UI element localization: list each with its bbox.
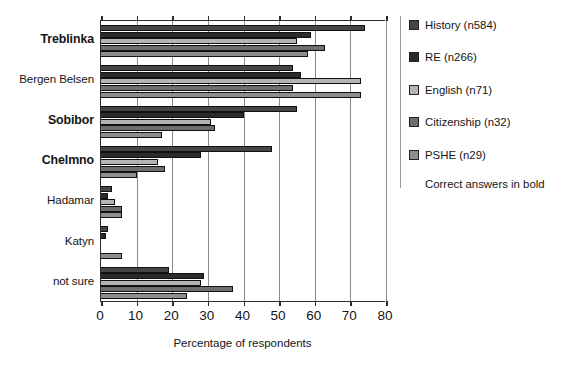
legend-item: English (n71) [409, 83, 567, 96]
bar [101, 172, 137, 178]
axis-tick [208, 16, 210, 21]
axis-tick [350, 16, 352, 21]
bar [101, 159, 158, 165]
x-tick-label: 30 [199, 308, 214, 323]
bar [101, 212, 122, 218]
bar [101, 106, 297, 112]
bar [101, 193, 108, 199]
bar-group [101, 146, 385, 178]
x-tick-label: 20 [164, 308, 179, 323]
bar-group [101, 267, 385, 299]
bar [101, 253, 122, 259]
legend-label: Citizenship (n32) [425, 116, 510, 128]
bar [101, 286, 233, 292]
legend-swatch-icon [409, 85, 419, 95]
legend-item: History (n584) [409, 18, 567, 31]
gridline [386, 21, 387, 301]
bar [101, 166, 165, 172]
bar [101, 78, 361, 84]
axis-tick [279, 16, 281, 21]
axis-tick [101, 301, 103, 306]
bar [101, 92, 361, 98]
bar-group [101, 65, 385, 97]
category-label: Treblinka [40, 32, 94, 46]
axis-tick [279, 301, 281, 306]
legend-item: RE (n266) [409, 51, 567, 64]
bar [101, 38, 297, 44]
category-label: not sure [53, 274, 94, 287]
legend-swatch-icon [409, 117, 419, 127]
bar [101, 273, 204, 279]
bar [101, 119, 211, 125]
chart-figure: TreblinkaBergen BelsenSobiborChelmnoHada… [0, 0, 567, 373]
bar [101, 132, 162, 138]
legend-swatch-icon [409, 52, 419, 62]
category-label: Sobibor [48, 113, 94, 127]
legend-divider [400, 16, 401, 188]
x-tick-label: 70 [342, 308, 357, 323]
x-axis-title: Percentage of respondents [100, 337, 385, 349]
x-tick-label: 80 [377, 308, 392, 323]
axis-tick [208, 301, 210, 306]
legend: History (n584)RE (n266)English (n71)Citi… [409, 18, 567, 181]
category-label: Hadamar [47, 193, 94, 206]
bar [101, 65, 293, 71]
bar [101, 152, 201, 158]
axis-tick [315, 16, 317, 21]
bar [101, 199, 115, 205]
bar [101, 280, 201, 286]
bar-group [101, 25, 385, 57]
x-tick-label: 40 [235, 308, 250, 323]
bar-group [101, 186, 385, 218]
bar [101, 146, 272, 152]
bar [101, 186, 112, 192]
plot-area [100, 20, 385, 302]
legend-note: Correct answers in bold [425, 178, 545, 190]
bar [101, 206, 122, 212]
axis-tick [137, 16, 139, 21]
category-axis-labels: TreblinkaBergen BelsenSobiborChelmnoHada… [0, 20, 94, 302]
bar [101, 45, 325, 51]
legend-label: RE (n266) [425, 51, 477, 63]
bar [101, 85, 293, 91]
bar [101, 267, 169, 273]
category-label: Chelmno [42, 153, 94, 167]
axis-tick [350, 301, 352, 306]
axis-tick [386, 301, 388, 306]
bar-group [101, 226, 385, 258]
bar [101, 51, 308, 57]
x-tick-labels: 01020304050607080 [0, 308, 567, 326]
axis-tick [172, 301, 174, 306]
bar [101, 233, 106, 239]
bar [101, 112, 244, 118]
x-tick-label: 60 [306, 308, 321, 323]
legend-swatch-icon [409, 20, 419, 30]
x-tick-label: 50 [271, 308, 286, 323]
category-label: Katyn [65, 234, 94, 247]
axis-tick [244, 301, 246, 306]
bar [101, 72, 301, 78]
axis-tick [315, 301, 317, 306]
axis-tick [172, 16, 174, 21]
bar [101, 226, 108, 232]
bar-group [101, 106, 385, 138]
bar [101, 293, 187, 299]
axis-tick [244, 16, 246, 21]
axis-tick [101, 16, 103, 21]
legend-item: Citizenship (n32) [409, 116, 567, 129]
axis-tick [137, 301, 139, 306]
bar [101, 125, 215, 131]
legend-item: PSHE (n29) [409, 148, 567, 161]
bar [101, 25, 365, 31]
legend-label: History (n584) [425, 19, 497, 31]
x-tick-label: 0 [96, 308, 104, 323]
legend-label: PSHE (n29) [425, 149, 486, 161]
axis-tick [386, 16, 388, 21]
category-label: Bergen Belsen [19, 72, 94, 85]
legend-swatch-icon [409, 150, 419, 160]
x-tick-label: 10 [128, 308, 143, 323]
legend-label: English (n71) [425, 84, 492, 96]
bar [101, 32, 311, 38]
